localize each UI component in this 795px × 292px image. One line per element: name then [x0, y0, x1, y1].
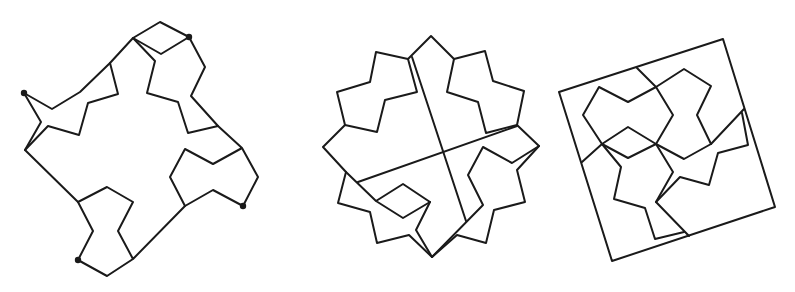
square-figure [559, 39, 775, 261]
hinge-point [21, 90, 27, 96]
hinge-point [75, 257, 81, 263]
piece-edge [656, 69, 711, 159]
star-polygon-figure [323, 36, 539, 257]
piece-edge [656, 144, 689, 236]
diagram-canvas [0, 0, 795, 292]
irregular-polygon-figure [21, 22, 258, 276]
piece-edge [25, 63, 118, 150]
piece-edge [133, 37, 218, 133]
hinge-point [240, 203, 246, 209]
piece-edge [583, 87, 656, 144]
piece-edge [346, 172, 430, 218]
piece-edge [602, 144, 684, 239]
dissection-diagram [0, 0, 795, 292]
piece-edge [337, 52, 408, 125]
hinge-point [186, 34, 192, 40]
piece-edge [170, 126, 258, 206]
piece-edge [447, 59, 517, 133]
piece-edge [323, 36, 539, 257]
piece-edge [711, 109, 744, 144]
piece-edge [78, 187, 185, 276]
piece-edge [24, 22, 189, 109]
